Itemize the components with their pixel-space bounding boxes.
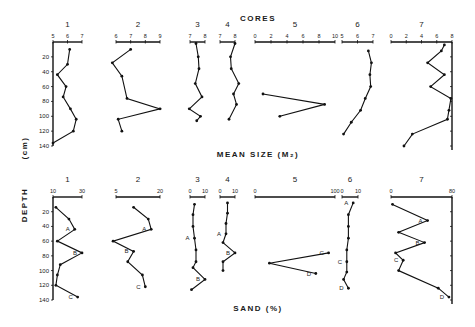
core-label: 4 [225, 20, 230, 29]
unit-letter-label: B [196, 276, 200, 282]
data-point [195, 119, 198, 122]
data-point [228, 118, 231, 121]
data-point [75, 118, 78, 121]
data-point [426, 219, 429, 222]
core-x-tick-label: 10 [202, 188, 208, 194]
data-point [369, 73, 372, 76]
data-point [190, 288, 193, 291]
data-point [426, 61, 429, 64]
core-x-tick-label: 8 [203, 33, 206, 39]
core-label: 5 [293, 175, 298, 184]
depth-tick-label: 40 [42, 69, 49, 75]
core-label: 1 [65, 20, 70, 29]
data-point [448, 296, 451, 299]
data-point [55, 284, 58, 287]
depth-tick-label: 140 [39, 143, 50, 149]
unit-letter-label: A [217, 231, 221, 237]
data-point [195, 42, 198, 45]
core-profile-line [344, 51, 372, 134]
data-point [350, 121, 353, 124]
core-x-tick-label: 4 [285, 33, 288, 39]
data-point [199, 115, 202, 118]
data-point [141, 274, 144, 277]
core-x-tick-label: 8 [144, 33, 147, 39]
unit-letter-label: C [319, 250, 324, 256]
core-x-tick-label: 9 [158, 33, 161, 39]
core-x-tick-label: 6 [114, 33, 117, 39]
core-label: 1 [65, 175, 70, 184]
unit-letter-label: D [339, 285, 344, 291]
depth-tick-label: 80 [42, 98, 49, 104]
core-x-tick-label: 7 [129, 33, 132, 39]
depth-unit-label: (cm) [20, 137, 29, 160]
core-x-tick-label: 20 [157, 188, 163, 194]
core-x-tick-label: 100 [330, 188, 339, 194]
depth-tick-label: 120 [39, 128, 50, 134]
unit-letter-label: C [68, 294, 73, 300]
core-profile-line [53, 49, 76, 143]
data-point [159, 107, 162, 110]
core-profile-line [263, 94, 325, 116]
mean-size-axis-label: MEAN SIZE (M₂) [217, 150, 299, 159]
data-point [126, 97, 129, 100]
core-label: 3 [195, 20, 200, 29]
core-label: 6 [348, 175, 353, 184]
unit-letter-label: A [344, 200, 348, 206]
data-point [347, 287, 350, 290]
depth-tick-label: 60 [42, 238, 49, 244]
data-point [56, 240, 59, 243]
data-point [192, 225, 195, 228]
data-point [370, 61, 373, 64]
core-x-tick-label: 6 [301, 33, 304, 39]
depth-axis-label: DEPTH [20, 188, 29, 223]
data-point [76, 296, 79, 299]
data-point [59, 263, 62, 266]
data-point [327, 252, 330, 255]
core-profiles-figure: CORES MEAN SIZE (M₂) SAND (%) DEPTH (cm)… [0, 0, 475, 327]
data-point [448, 109, 451, 112]
data-point [234, 252, 237, 255]
data-point [345, 249, 348, 252]
data-point [443, 44, 446, 47]
data-point [232, 93, 235, 96]
data-point [73, 228, 76, 231]
data-point [81, 252, 84, 255]
unit-letter-label: A [66, 226, 70, 232]
core-x-tick-label: 0 [253, 33, 256, 39]
data-point [225, 232, 228, 235]
data-point [402, 259, 405, 262]
depth-tick-label: 60 [42, 84, 49, 90]
data-point [323, 103, 326, 106]
core-x-tick-label: 10 [355, 188, 361, 194]
data-point [147, 218, 150, 221]
core-x-tick-label: 6 [66, 33, 69, 39]
core-profile-line [404, 45, 451, 146]
data-point [132, 206, 135, 209]
data-point [235, 103, 238, 106]
depth-tick-label: 140 [39, 297, 50, 303]
data-point [364, 97, 367, 100]
core-label: 2 [136, 20, 141, 29]
core-label: 6 [355, 20, 360, 29]
core-x-tick-label: 0 [340, 188, 343, 194]
data-point [429, 85, 432, 88]
data-point [222, 260, 225, 263]
data-point [226, 201, 229, 204]
core-x-tick-label: 5 [51, 33, 54, 39]
core-x-tick-label: 2 [405, 33, 408, 39]
core-x-tick-label: 8 [450, 33, 453, 39]
data-point [440, 50, 443, 53]
core-x-tick-label: 2 [269, 33, 272, 39]
data-point [68, 48, 71, 51]
unit-letter-label: C [394, 257, 399, 263]
data-point [56, 73, 59, 76]
data-point [314, 272, 317, 275]
data-point [117, 118, 120, 121]
data-point [120, 75, 123, 78]
core-x-tick-label: 8 [317, 33, 320, 39]
unit-letter-label: C [338, 259, 343, 265]
data-point [229, 55, 232, 58]
data-point [188, 107, 191, 110]
depth-tick-label: 20 [42, 54, 49, 60]
core-label: 7 [419, 20, 424, 29]
